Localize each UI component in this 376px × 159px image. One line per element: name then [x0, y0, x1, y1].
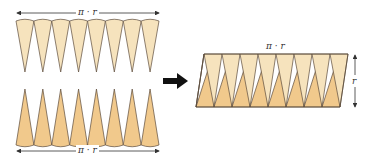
sector: [105, 89, 123, 147]
sector: [52, 19, 70, 72]
result-height-label: r: [352, 75, 356, 87]
sector: [123, 19, 141, 72]
result-width-label: π · r: [264, 41, 287, 51]
sector: [16, 89, 34, 147]
sector: [70, 19, 88, 72]
sector: [123, 89, 141, 147]
sector: [88, 89, 106, 147]
top-sector-row: [16, 19, 159, 72]
sector: [88, 19, 106, 72]
transform-arrow-icon: [163, 73, 188, 89]
rearranged-parallelogram: [196, 54, 348, 107]
sector: [52, 89, 70, 147]
sector: [141, 19, 159, 72]
bottom-sector-row: [16, 89, 159, 147]
diagram-canvas: [0, 0, 376, 159]
sector: [105, 19, 123, 72]
sector: [34, 19, 52, 72]
sector: [141, 89, 159, 147]
sector: [16, 19, 34, 72]
sector: [34, 89, 52, 147]
circle-area-diagram: π · r π · r π · r r: [0, 0, 376, 159]
top-width-label: π · r: [76, 7, 99, 17]
bottom-width-label: π · r: [76, 145, 99, 155]
sector: [70, 89, 88, 147]
